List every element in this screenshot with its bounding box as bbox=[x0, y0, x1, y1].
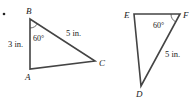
angle-b-arc bbox=[30, 24, 38, 28]
triangle-abc-shape bbox=[30, 19, 95, 69]
vertex-d-label: D bbox=[135, 89, 143, 99]
side-ab-length: 3 in. bbox=[8, 39, 23, 49]
vertex-a-label: A bbox=[24, 72, 31, 82]
triangle-def: E F D 5 in. 60° bbox=[123, 10, 189, 99]
vertex-b-label: B bbox=[26, 6, 32, 16]
side-bc-length: 5 in. bbox=[66, 28, 81, 38]
vertex-f-label: F bbox=[182, 10, 189, 20]
angle-b-value: 60° bbox=[33, 34, 44, 43]
triangle-abc: B A C 3 in. 5 in. 60° bbox=[8, 6, 106, 82]
angle-f-arc bbox=[171, 14, 176, 22]
vertex-c-label: C bbox=[99, 58, 106, 68]
side-fd-length: 5 in. bbox=[165, 49, 180, 59]
bullet-marker bbox=[3, 13, 6, 16]
angle-f-value: 60° bbox=[153, 21, 164, 30]
vertex-e-label: E bbox=[123, 10, 130, 20]
figure: B A C 3 in. 5 in. 60° E F D 5 in. 60° bbox=[0, 0, 192, 102]
